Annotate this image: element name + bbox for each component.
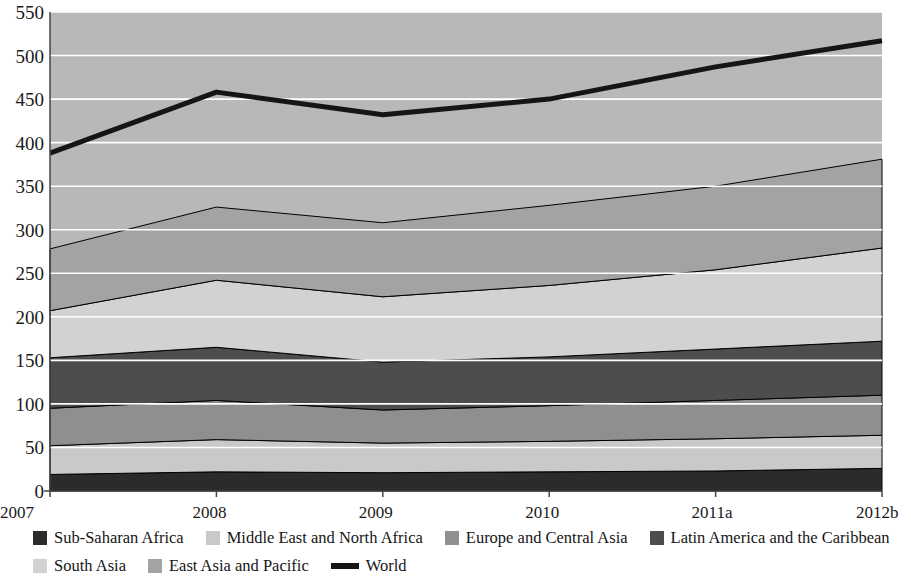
legend-row-primary: Sub-Saharan AfricaMiddle East and North … [0,524,911,552]
legend-row-secondary: South AsiaEast Asia and PacificWorld [0,552,911,580]
legend-swatch-icon [148,559,162,573]
legend-item[interactable]: Europe and Central Asia [445,530,628,547]
legend-label: Europe and Central Asia [466,530,628,547]
x-tick-label: 2011a [692,504,733,521]
x-tick-label: 2010 [525,504,559,521]
legend-label: South Asia [54,558,126,575]
legend-item[interactable]: Sub-Saharan Africa [33,530,184,547]
x-tick-label: 2008 [192,504,226,521]
legend-item[interactable]: East Asia and Pacific [148,558,309,575]
chart-legend: Sub-Saharan AfricaMiddle East and North … [0,524,911,588]
legend-swatch-icon [206,531,220,545]
stacked-area-chart: 550500450400350300250200150100500 200720… [0,0,911,588]
x-tick-label: 2009 [359,504,393,521]
x-axis: 20072008200920102011a2012b [0,494,911,518]
legend-item[interactable]: World [331,558,407,575]
legend-swatch-icon [33,559,47,573]
legend-swatch-icon [33,531,47,545]
legend-item[interactable]: Latin America and the Caribbean [650,530,890,547]
legend-item[interactable]: Middle East and North Africa [206,530,423,547]
legend-label: East Asia and Pacific [169,558,309,575]
x-tick-label: 2007 [0,504,34,521]
legend-label: Middle East and North Africa [227,530,423,547]
legend-line-marker-icon [331,563,359,569]
legend-label: Sub-Saharan Africa [54,530,184,547]
legend-item[interactable]: South Asia [33,558,126,575]
legend-label: Latin America and the Caribbean [671,530,890,547]
x-tick-label: 2012b [856,504,899,521]
legend-label: World [366,558,407,575]
legend-swatch-icon [650,531,664,545]
legend-swatch-icon [445,531,459,545]
